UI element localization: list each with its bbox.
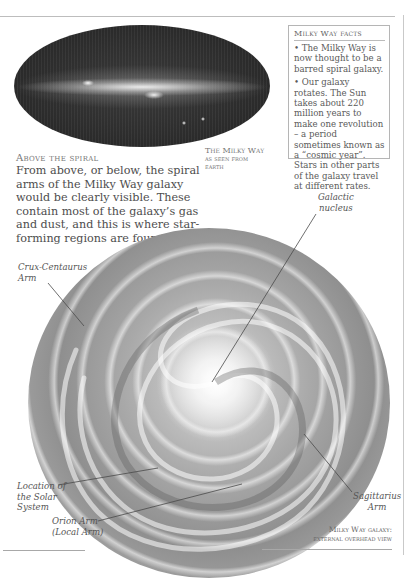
galaxy-caption-line2: external overhead view xyxy=(262,535,392,544)
right-column-rule xyxy=(403,15,404,555)
facts-box: Milky Way facts • The Milky Way is now t… xyxy=(288,25,390,159)
bottom-left-rule xyxy=(3,550,85,551)
label-galactic-nucleus-line2: nucleus xyxy=(318,203,354,214)
label-sagittarius-arm: Sagittarius Arm xyxy=(353,491,401,512)
label-orion-arm: Orion Arm (Local Arm) xyxy=(52,516,103,537)
bottom-right-rule xyxy=(262,549,392,550)
sky-map-caption-line1: The Milky Way xyxy=(205,147,264,155)
label-crux-line1: Crux-Centaurus xyxy=(18,262,87,273)
label-crux-line2: Arm xyxy=(18,273,87,284)
label-galactic-nucleus: Galactic nucleus xyxy=(318,192,354,213)
fact-item: • Our galaxy rotates. The Sun takes abou… xyxy=(294,77,385,191)
label-solar-line3: System xyxy=(17,502,66,513)
section-heading: Above the spiral xyxy=(16,152,99,163)
label-sag-line1: Sagittarius xyxy=(353,491,401,502)
label-galactic-nucleus-line1: Galactic xyxy=(318,192,354,203)
sky-map-caption-line2: as seen from xyxy=(205,155,264,163)
facts-box-title: Milky Way facts xyxy=(294,29,385,41)
label-orion-line1: Orion Arm xyxy=(52,516,103,527)
milky-way-sky-map-image xyxy=(14,25,270,147)
label-crux-centaurus-arm: Crux-Centaurus Arm xyxy=(18,262,87,283)
label-orion-line2: (Local Arm) xyxy=(52,527,103,538)
label-solar-system-location: Location of the Solar System xyxy=(17,481,66,513)
label-solar-line2: the Solar xyxy=(17,492,66,503)
label-sag-line2: Arm xyxy=(353,502,401,513)
galaxy-caption: Milky Way galaxy: external overhead view xyxy=(262,526,392,543)
label-solar-line1: Location of xyxy=(17,481,66,492)
top-rule xyxy=(0,16,395,17)
galaxy-caption-line1: Milky Way galaxy: xyxy=(262,526,392,535)
fact-item: • The Milky Way is now thought to be a b… xyxy=(294,43,385,74)
